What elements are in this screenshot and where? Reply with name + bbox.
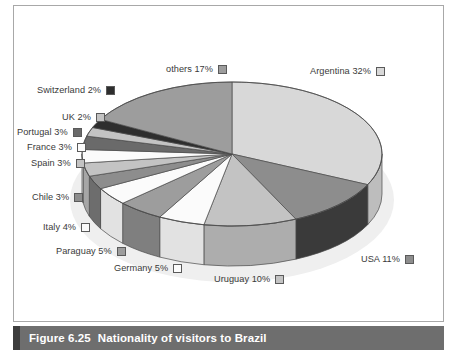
figure-container: Argentina 32% others 17% Switzerland 2% … xyxy=(0,0,451,357)
pie-label-france-text: France 3% xyxy=(27,142,72,152)
pie-label-france: France 3% xyxy=(27,142,86,152)
pie-swatch-portugal xyxy=(73,128,82,137)
pie-label-uruguay-text: Uruguay 10% xyxy=(214,274,270,284)
pie-swatch-others xyxy=(218,65,227,74)
pie-label-uk: UK 2% xyxy=(62,112,105,122)
pie-swatch-switzerland xyxy=(106,86,115,95)
pie-label-germany: Germany 5% xyxy=(114,263,182,273)
pie-label-others: others 17% xyxy=(166,64,227,74)
pie-label-germany-text: Germany 5% xyxy=(114,263,168,273)
pie-swatch-uk xyxy=(96,113,105,122)
pie-side-uruguay xyxy=(204,219,296,266)
pie-swatch-italy xyxy=(81,223,90,232)
pie-label-spain-text: Spain 3% xyxy=(31,158,71,168)
pie-label-portugal: Portugal 3% xyxy=(17,127,82,137)
pie-swatch-argentina xyxy=(376,67,385,76)
pie-label-uk-text: UK 2% xyxy=(62,112,91,122)
pie-label-italy-text: Italy 4% xyxy=(43,222,76,232)
pie-label-italy: Italy 4% xyxy=(43,222,90,232)
pie-label-usa: USA 11% xyxy=(361,254,414,264)
pie-label-switzerland-text: Switzerland 2% xyxy=(37,85,101,95)
pie-swatch-chile xyxy=(74,193,83,202)
caption-figure-number: Figure 6.25 xyxy=(29,332,91,344)
pie-label-chile-text: Chile 3% xyxy=(32,192,69,202)
pie-label-spain: Spain 3% xyxy=(31,158,85,168)
pie-label-others-text: others 17% xyxy=(166,64,213,74)
pie-top-faces xyxy=(82,82,382,226)
pie-swatch-usa xyxy=(405,255,414,264)
pie-label-chile: Chile 3% xyxy=(32,192,83,202)
pie-label-usa-text: USA 11% xyxy=(361,254,400,264)
pie-swatch-france xyxy=(77,143,86,152)
pie-swatch-spain xyxy=(76,159,85,168)
pie-label-uruguay: Uruguay 10% xyxy=(214,274,284,284)
pie-label-argentina: Argentina 32% xyxy=(310,66,385,76)
pie-swatch-paraguay xyxy=(117,247,126,256)
figure-caption-bar: Figure 6.25 Nationality of visitors to B… xyxy=(13,326,444,350)
caption-title: Nationality of visitors to Brazil xyxy=(98,332,267,344)
chart-frame: Argentina 32% others 17% Switzerland 2% … xyxy=(13,5,444,322)
pie-label-switzerland: Switzerland 2% xyxy=(37,85,115,95)
pie-label-argentina-text: Argentina 32% xyxy=(310,66,371,76)
caption-accent-block xyxy=(13,326,20,350)
pie-swatch-uruguay xyxy=(275,275,284,284)
pie-label-paraguay: Paraguay 5% xyxy=(56,246,126,256)
pie-label-paraguay-text: Paraguay 5% xyxy=(56,246,112,256)
pie-swatch-germany xyxy=(173,264,182,273)
pie-label-portugal-text: Portugal 3% xyxy=(17,127,68,137)
